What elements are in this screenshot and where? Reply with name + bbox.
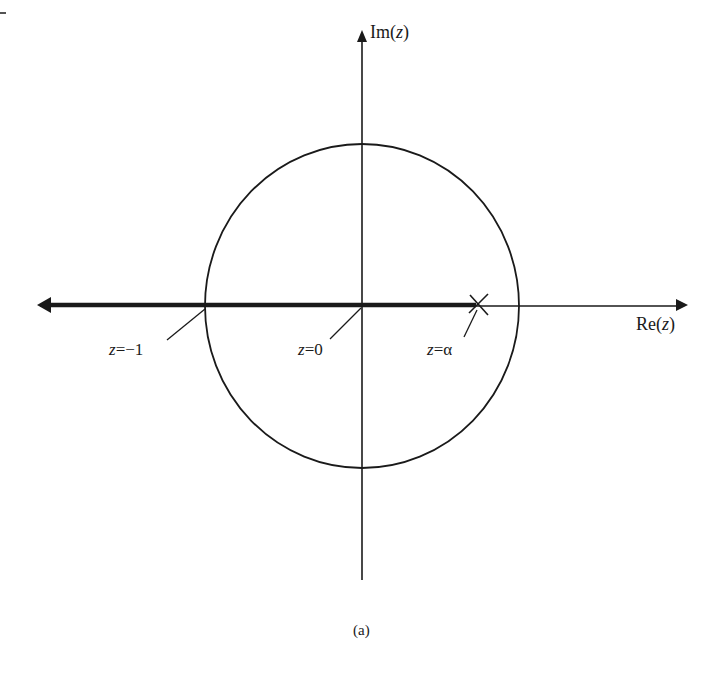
leader-line-zero [330, 308, 361, 339]
label-z-minus-one: z=−1 [109, 340, 143, 360]
label-z-zero: z=0 [298, 340, 323, 360]
arrow-up-icon [357, 30, 367, 42]
arrow-right-icon [676, 299, 688, 311]
z-plane-diagram [0, 0, 714, 679]
arrow-left-icon [37, 297, 51, 313]
label-z-alpha: z=α [427, 340, 452, 360]
figure-caption: (a) [353, 622, 370, 639]
leader-line-minus-one [167, 309, 205, 340]
leader-line-alpha [464, 310, 477, 337]
real-axis-label: Re(z) [636, 314, 675, 335]
imaginary-axis-label: Im(z) [370, 22, 409, 43]
root-locus-segment [37, 297, 476, 313]
